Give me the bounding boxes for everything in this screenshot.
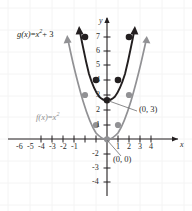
leader-line-0-3 <box>109 101 137 111</box>
y-tick-label--4: -4 <box>92 178 99 186</box>
x-axis-arrowhead <box>172 136 178 141</box>
x-tick-label--3: -3 <box>49 143 56 151</box>
curve-f-right-arrowhead <box>142 36 150 44</box>
graph-figure: -6 -5 -4 -3 -2 -1 1 2 3 4 7 6 5 4 3 2 1 … <box>0 0 192 211</box>
y-tick-label-3: 3 <box>96 91 100 99</box>
function-label-f: f(x)=x2 <box>36 111 59 121</box>
x-tick-label--1: -1 <box>71 143 78 151</box>
y-tick-label-2: 2 <box>96 106 100 114</box>
y-tick-label-7: 7 <box>96 33 100 41</box>
y-tick-label-5: 5 <box>96 61 100 69</box>
x-tick-label--5: -5 <box>27 143 34 151</box>
annotation-vertex-g: (0, 3) <box>139 105 157 114</box>
x-tick-label-4: 4 <box>149 143 153 151</box>
x-tick-label-2: 2 <box>127 143 131 151</box>
x-tick-label-1: 1 <box>116 143 120 151</box>
y-tick-label-4: 4 <box>96 76 100 84</box>
x-tick-label--6: -6 <box>16 143 23 151</box>
x-tick-label--4: -4 <box>38 143 45 151</box>
y-tick-label-6: 6 <box>96 47 100 55</box>
function-label-f-name: f(x) <box>36 112 48 122</box>
x-tick-label-3: 3 <box>138 143 142 151</box>
annotation-leaders <box>107 101 137 156</box>
curve-f-left-arrowhead <box>64 35 72 43</box>
annotation-vertex-f: (0, 0) <box>113 155 131 164</box>
y-axis-arrowhead <box>104 17 109 23</box>
function-label-g-tail: + 3 <box>42 29 53 39</box>
function-label-g: g(x)=x2+ 3 <box>17 28 53 38</box>
function-label-f-exponent: 2 <box>56 111 59 117</box>
x-axis-label: x <box>180 141 184 149</box>
y-axis-label: y <box>99 17 103 25</box>
y-tick-label-1: 1 <box>96 121 100 129</box>
y-tick-label--2: -2 <box>92 150 99 158</box>
y-tick-label--3: -3 <box>92 164 99 172</box>
function-label-g-name: g(x) <box>17 29 31 39</box>
x-tick-label--2: -2 <box>60 143 67 151</box>
